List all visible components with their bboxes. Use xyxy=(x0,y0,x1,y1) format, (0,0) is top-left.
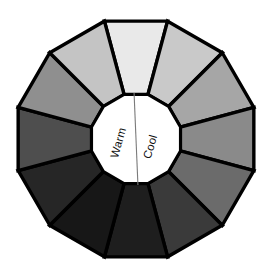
wheel-hub-group: WarmCool xyxy=(92,93,181,185)
value-wheel-figure: WarmCool xyxy=(0,0,272,278)
value-wheel-svg: WarmCool xyxy=(0,0,272,278)
